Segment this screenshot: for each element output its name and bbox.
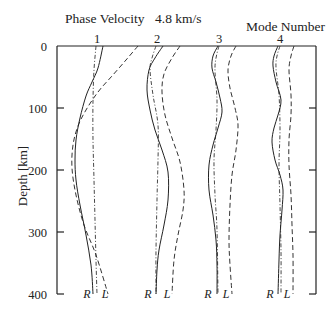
mode-1-R-curve bbox=[75, 46, 103, 294]
mode-2-R-curve bbox=[147, 46, 169, 294]
mode-2-L-curve bbox=[162, 46, 184, 294]
y-tick-label: 0 bbox=[41, 40, 47, 54]
mode-2-reference-line bbox=[150, 46, 158, 294]
mode-label-2: 2 bbox=[154, 32, 160, 46]
y-tick-label: 400 bbox=[28, 288, 47, 302]
y-tick-label: 100 bbox=[28, 102, 47, 116]
mode-label-1: 1 bbox=[94, 32, 100, 46]
component-labels: RLRLRLRL bbox=[82, 287, 290, 301]
mode-3-L-label: L bbox=[222, 287, 230, 301]
mode-3-R-curve bbox=[208, 46, 222, 294]
chart-title-label: Phase Velocity bbox=[65, 11, 145, 26]
y-tick-label: 300 bbox=[28, 226, 47, 240]
mode-label-3: 3 bbox=[216, 32, 222, 46]
depth-profile-chart: Phase Velocity 4.8 km/s Mode Number 1234… bbox=[0, 0, 335, 317]
mode-label-4: 4 bbox=[277, 32, 284, 46]
mode-2-R-label: R bbox=[143, 287, 152, 301]
mode-2-L-label: L bbox=[163, 287, 171, 301]
mode-4-L-curve bbox=[289, 46, 294, 294]
y-ticks: 0100200300400 bbox=[28, 40, 316, 302]
mode-1-L-label: L bbox=[101, 287, 109, 301]
mode-1-L-curve bbox=[72, 46, 138, 294]
y-tick-label: 200 bbox=[28, 164, 47, 178]
chart-title-value: 4.8 km/s bbox=[155, 11, 202, 26]
mode-curves bbox=[72, 46, 294, 294]
mode-4-R-label: R bbox=[265, 287, 274, 301]
mode-number-labels: 1234 bbox=[94, 32, 284, 46]
mode-1-R-label: R bbox=[82, 287, 91, 301]
mode-3-L-curve bbox=[228, 46, 238, 294]
y-axis-label: Depth [km] bbox=[15, 146, 30, 206]
mode-number-label: Mode Number bbox=[246, 19, 326, 34]
mode-3-R-label: R bbox=[203, 287, 212, 301]
mode-4-L-label: L bbox=[283, 287, 291, 301]
